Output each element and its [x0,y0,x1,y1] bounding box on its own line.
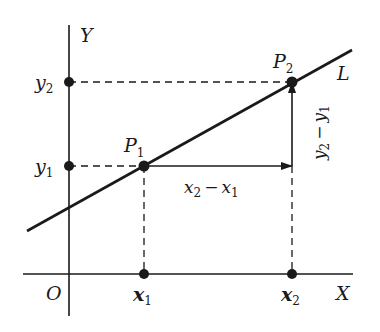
point-P2 [287,77,298,88]
point-P1 [139,161,150,172]
rise-expression: y2−y1 [309,105,332,161]
x-axis-label: X [334,282,351,304]
y-axis-label: Y [80,24,95,46]
point-x1 [139,269,149,279]
x2-label: x2 [280,283,300,308]
point-y1 [64,161,74,171]
x1-label: x1 [132,283,152,308]
P1-label: P1 [123,134,144,160]
y1-label: y1 [34,155,53,180]
line-L [27,50,352,231]
slope-diagram: Y X O L y2 y1 x1 x2 P1 P2 x2−x1 y2−y1 [0,0,380,332]
diagram-canvas: Y X O L y2 y1 x1 x2 P1 P2 x2−x1 y2−y1 [0,0,380,332]
point-y2 [64,77,74,87]
run-expression: x2−x1 [184,177,239,200]
P2-label: P2 [272,50,293,76]
origin-label: O [46,282,62,304]
y2-label: y2 [34,71,53,96]
point-x2 [287,269,297,279]
line-L-label: L [336,62,350,84]
